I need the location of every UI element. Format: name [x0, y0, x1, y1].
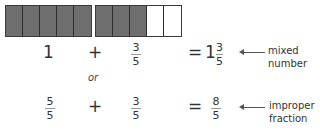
- numerator: 3: [133, 42, 140, 53]
- bar-cell-filled: [40, 6, 57, 36]
- improper-fraction-label: improper fraction: [269, 99, 315, 125]
- bar-cell-filled: [23, 6, 40, 36]
- arrow-left-icon: [243, 107, 265, 108]
- numerator: 8: [213, 96, 220, 107]
- equals-sign: =: [188, 96, 202, 116]
- plus-sign: +: [88, 42, 102, 62]
- bar-cell-filled: [74, 6, 91, 36]
- mixed-number-label: mixed number: [268, 44, 307, 70]
- bar-cell-filled: [113, 6, 130, 36]
- mixed-whole: 1: [205, 42, 216, 62]
- bar-cell-filled: [130, 6, 147, 36]
- improper-fraction: 8 5: [211, 96, 221, 121]
- arrow-left-icon: [243, 52, 265, 53]
- fraction-three-fifths: 3 5: [131, 42, 141, 67]
- whole-number: 1: [43, 42, 54, 62]
- denominator: 5: [213, 110, 220, 121]
- equals-sign: =: [188, 42, 202, 62]
- numerator: 3: [133, 96, 140, 107]
- mixed-fraction: 3 5: [216, 42, 223, 67]
- denominator: 5: [216, 56, 223, 67]
- bar-cell-empty: [164, 6, 181, 36]
- bar-cell-filled: [96, 6, 113, 36]
- bar-cell-empty: [147, 6, 164, 36]
- plus-sign: +: [88, 96, 102, 116]
- or-text: or: [88, 72, 98, 83]
- fraction-five-fifths: 5 5: [45, 96, 55, 121]
- fraction-three-fifths: 3 5: [131, 96, 141, 121]
- fraction-bar: [95, 5, 182, 37]
- denominator: 5: [47, 110, 54, 121]
- numerator: 5: [47, 96, 54, 107]
- bar-cell-filled: [57, 6, 74, 36]
- numerator: 3: [216, 42, 223, 53]
- denominator: 5: [133, 110, 140, 121]
- bar-cell-filled: [6, 6, 23, 36]
- denominator: 5: [133, 56, 140, 67]
- whole-bar: [5, 5, 92, 37]
